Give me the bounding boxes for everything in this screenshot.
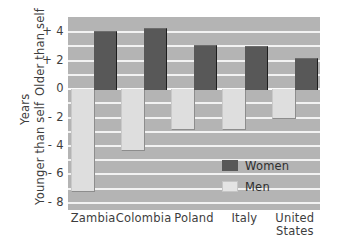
legend-item: Men [222, 178, 314, 195]
legend-swatch-men [222, 181, 238, 192]
x-tick-label: States [262, 225, 328, 238]
chart-legend: WomenMen [222, 157, 314, 199]
bar-men [71, 89, 95, 192]
y-tick-label: - 2 [34, 112, 64, 123]
y-tick-label: 0 [34, 83, 64, 94]
bar-women [295, 58, 318, 90]
y-tick-label: + 2 [34, 55, 64, 66]
bar-women [94, 31, 117, 90]
chart-container: Older than self Younger than self Years … [0, 0, 337, 242]
bar-men [121, 89, 145, 151]
bar-group [169, 17, 219, 210]
x-tick-label-group: UnitedStates [262, 212, 328, 238]
bar-group [118, 17, 168, 210]
bar-men [272, 89, 296, 118]
bar-men [171, 89, 195, 130]
x-axis-labels: ZambiaColombiaPolandItalyUnitedStates [68, 212, 320, 242]
legend-item: Women [222, 157, 314, 174]
y-tick-label: - 4 [34, 140, 64, 151]
bar-men [222, 89, 246, 130]
bar-group [68, 17, 118, 210]
y-tick-label: + 4 [34, 26, 64, 37]
legend-label: Men [245, 180, 270, 194]
bar-women [144, 28, 167, 90]
y-tick-label: - 8 [34, 197, 64, 208]
legend-label: Women [245, 159, 289, 173]
legend-swatch-women [222, 160, 238, 171]
y-axis-ticks: + 4+ 20- 2- 4- 6- 8 [30, 0, 64, 242]
bar-women [194, 45, 217, 90]
y-tick-label: - 6 [34, 168, 64, 179]
bar-women [245, 46, 268, 90]
